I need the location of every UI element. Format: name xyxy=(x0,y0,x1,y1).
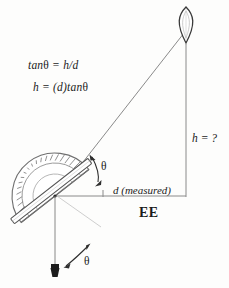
formula-height: h = (d)tanθ xyxy=(33,82,88,94)
balloon-icon xyxy=(179,7,193,43)
label-theta-sight: θ xyxy=(101,161,107,173)
figure-canvas: tanθ = h/d h = (d)tanθ h = ? d (measured… xyxy=(0,0,229,288)
formula-tangent-post: = h/d xyxy=(49,59,78,71)
label-measured-distance: d (measured) xyxy=(113,185,171,196)
theta-sight-arrow xyxy=(90,155,102,187)
plumb-bob-icon xyxy=(51,264,60,277)
formula-tangent-pre: tan xyxy=(28,59,43,71)
label-ee: EE xyxy=(139,206,159,220)
label-unknown-height: h = ? xyxy=(192,133,217,145)
label-theta-plumb: θ xyxy=(84,256,90,268)
formula-tangent: tanθ = h/d xyxy=(28,60,78,72)
reference-ray xyxy=(57,196,101,227)
formula-height-pre: h = (d)tan xyxy=(33,81,82,93)
theta-symbol-formula-2: θ xyxy=(82,81,88,93)
